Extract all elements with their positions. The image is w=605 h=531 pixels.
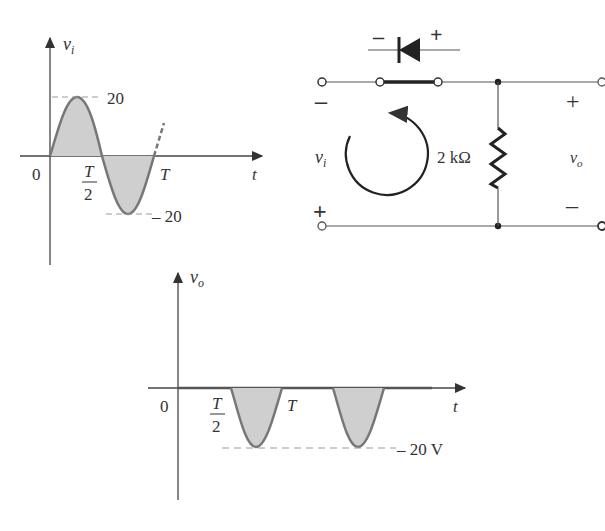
output-terminal-top bbox=[598, 78, 605, 86]
peak-label: 20 bbox=[107, 89, 124, 108]
resistor-label: 2 kΩ bbox=[437, 148, 471, 167]
half-wave-circuit: – + 2 kΩ – + vi + – vo bbox=[313, 22, 605, 230]
t-axis-label-output: t bbox=[453, 397, 459, 416]
origin-label-output: 0 bbox=[160, 397, 169, 416]
output-minus: – bbox=[565, 192, 579, 218]
half-period-den: 2 bbox=[84, 185, 93, 204]
vi-axis-label: vi bbox=[63, 34, 74, 57]
switch-terminal-left bbox=[376, 78, 384, 86]
trough-label-output: – 20 V bbox=[396, 440, 444, 459]
input-terminal-top bbox=[318, 78, 326, 86]
half-period-num: T bbox=[84, 162, 95, 181]
current-loop-arrow-icon bbox=[346, 113, 428, 195]
resistor-icon bbox=[491, 128, 505, 188]
vo-label: vo bbox=[570, 149, 583, 169]
diode-minus: – bbox=[372, 24, 385, 49]
output-plus: + bbox=[566, 88, 580, 114]
period-label: T bbox=[160, 165, 171, 184]
output-terminal-bottom bbox=[598, 222, 605, 230]
output-waveform-graph: vo 0 T 2 T t – 20 V bbox=[148, 267, 465, 500]
vi-label: vi bbox=[315, 147, 326, 170]
input-waveform-graph: vi 20 – 20 0 T 2 T t bbox=[20, 34, 262, 265]
period-label-output: T bbox=[287, 396, 298, 415]
t-axis-label: t bbox=[252, 165, 258, 184]
trough-label: – 20 bbox=[151, 207, 182, 226]
half-period-den-output: 2 bbox=[212, 417, 221, 436]
diode-circuit-diagram: vi 20 – 20 0 T 2 T t – + 2 kΩ bbox=[0, 0, 605, 531]
diode-icon bbox=[399, 38, 420, 62]
origin-label: 0 bbox=[32, 165, 41, 184]
diode-plus: + bbox=[430, 22, 443, 47]
switch-terminal-right bbox=[434, 78, 442, 86]
continuation-dash bbox=[154, 123, 164, 156]
vo-axis-label: vo bbox=[190, 267, 204, 290]
input-plus: + bbox=[313, 198, 327, 224]
input-minus: – bbox=[314, 88, 328, 114]
half-period-num-output: T bbox=[212, 394, 223, 413]
